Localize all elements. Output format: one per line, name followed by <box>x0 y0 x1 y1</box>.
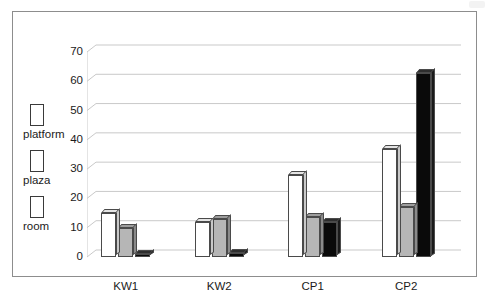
bar-side-face <box>337 217 341 255</box>
bar-front-face <box>399 207 414 257</box>
bar-groups <box>87 52 461 257</box>
y-tick-label: 70 <box>61 45 83 57</box>
bar-side-face <box>116 208 120 255</box>
bar-front-face <box>101 213 116 257</box>
bar-side-face <box>320 213 324 255</box>
bar-front-face <box>322 222 337 257</box>
bar-side-face <box>133 223 137 255</box>
bar-front-face <box>288 175 303 257</box>
bar-cp1-room[interactable] <box>322 222 337 257</box>
y-tick-label: 10 <box>61 221 83 233</box>
bar-cp1-plaza[interactable] <box>305 217 320 257</box>
page-corner-artifact <box>469 1 485 8</box>
bar-cp1-platform[interactable] <box>288 175 303 257</box>
y-tick-label: 0 <box>61 250 83 262</box>
bar-front-face <box>229 253 244 257</box>
bar-front-face <box>212 219 227 257</box>
y-tick-label: 60 <box>61 74 83 86</box>
bar-kw2-platform[interactable] <box>195 222 210 257</box>
bar-side-face <box>210 217 214 255</box>
y-tick-label: 40 <box>61 133 83 145</box>
bar-front-face <box>118 228 133 257</box>
legend-swatch-platform <box>30 104 44 126</box>
x-tick-label-kw1: KW1 <box>96 280 156 292</box>
bar-kw2-room[interactable] <box>229 253 244 257</box>
bar-front-face <box>382 149 397 257</box>
y-tick-label: 50 <box>61 104 83 116</box>
x-tick-label-kw2: KW2 <box>189 280 249 292</box>
bar-side-face <box>414 203 418 255</box>
bar-cp2-platform[interactable] <box>382 149 397 257</box>
legend-swatch-room <box>30 196 44 218</box>
bar-group-cp2 <box>382 52 437 257</box>
y-axis-ticks: 010203040506070 <box>57 32 83 277</box>
bar-kw1-plaza[interactable] <box>118 228 133 257</box>
bar-side-face <box>397 144 401 255</box>
bar-side-face <box>431 68 435 255</box>
bar-front-face <box>195 222 210 257</box>
legend-swatch-plaza <box>30 150 44 172</box>
bar-side-face <box>303 170 307 255</box>
bar-front-face <box>416 73 431 258</box>
bar-kw1-platform[interactable] <box>101 213 116 257</box>
x-tick-label-cp1: CP1 <box>283 280 343 292</box>
plot-area: 010203040506070 KW1KW2CP1CP2 <box>87 32 461 277</box>
bar-side-face <box>227 214 231 255</box>
bar-front-face <box>305 217 320 257</box>
bar-group-cp1 <box>288 52 343 257</box>
bar-group-kw2 <box>195 52 250 257</box>
y-tick-label: 30 <box>61 162 83 174</box>
chart-figure: platform plaza room 010203040506070 KW1K… <box>12 11 477 277</box>
bar-front-face <box>135 254 150 257</box>
bar-kw1-room[interactable] <box>135 254 150 257</box>
bar-cp2-plaza[interactable] <box>399 207 414 257</box>
bar-cp2-room[interactable] <box>416 73 431 258</box>
bar-kw2-plaza[interactable] <box>212 219 227 257</box>
bar-group-kw1 <box>101 52 156 257</box>
x-tick-label-cp2: CP2 <box>376 280 436 292</box>
y-tick-label: 20 <box>61 191 83 203</box>
